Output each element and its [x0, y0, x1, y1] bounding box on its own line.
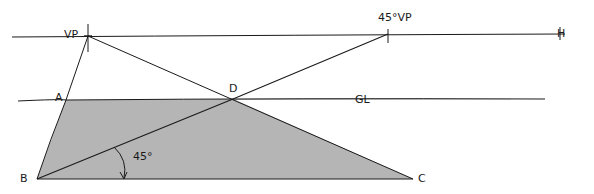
label-a: A	[55, 91, 63, 104]
label-vp: VP	[64, 28, 78, 41]
label-angle: 45°	[133, 150, 153, 163]
perspective-diagram: VP 45°VP H GL A B C D 45°	[0, 0, 594, 194]
shaded-ground-plane-fill	[37, 99, 413, 179]
diagram-svg	[0, 0, 594, 194]
label-ground-line: GL	[355, 93, 370, 106]
label-d: D	[229, 82, 237, 95]
label-horizon: H	[557, 27, 565, 40]
label-c: C	[418, 172, 426, 185]
label-vp45: 45°VP	[378, 11, 412, 24]
label-b: B	[20, 172, 28, 185]
horizon-line	[12, 34, 565, 37]
